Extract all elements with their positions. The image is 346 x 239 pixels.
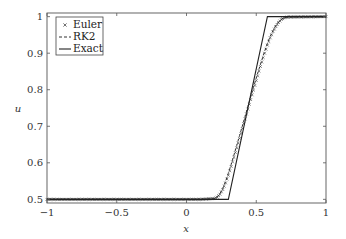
legend-label-euler: Euler: [73, 18, 103, 30]
chart: −1−0.500.51 0.50.60.70.80.91 x u Euler R…: [0, 0, 346, 239]
x-tick-label: −1: [40, 207, 55, 218]
legend-label-exact: Exact: [73, 42, 104, 54]
y-tick-label: 0.7: [27, 121, 43, 132]
legend: Euler RK2 Exact: [56, 17, 104, 55]
x-tick-label: 0: [183, 207, 189, 218]
y-tick-label: 0.5: [27, 194, 43, 205]
x-axis-label: x: [183, 223, 189, 234]
x-tick-label: 1: [323, 207, 329, 218]
y-tick-label: 0.8: [27, 84, 43, 95]
legend-label-rk2: RK2: [73, 30, 95, 42]
y-tick-label: 1: [37, 11, 43, 22]
x-tick-label: −0.5: [105, 207, 129, 218]
x-tick-label: 0.5: [248, 207, 264, 218]
y-tick-label: 0.9: [27, 48, 43, 59]
y-axis-label: u: [15, 103, 21, 114]
y-tick-label: 0.6: [27, 157, 43, 168]
